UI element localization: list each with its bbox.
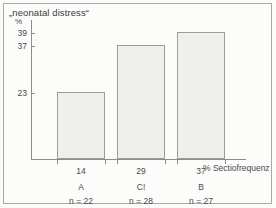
chart-figure: „neonatal distress“ % 39 37 23 14 29 37 … [0,0,276,208]
y-axis-unit-label: % [15,17,22,26]
y-tick-label-37: 37 [9,41,27,51]
x-tick-start-b [177,160,178,164]
x-axis-line [31,159,246,160]
y-tick-23 [31,93,35,94]
group-count-b: n = 27 [171,196,231,206]
group-count-a: n = 22 [51,196,111,206]
bar-group-a [57,92,105,159]
y-tick-37 [31,46,35,47]
group-label-a: A [57,182,105,192]
x-tick-end-c [165,160,166,164]
x-tick-start-c [117,160,118,164]
y-tick-39 [31,33,35,34]
group-label-b: B [177,182,225,192]
x-tick-end-a [105,160,106,164]
x-tick-label-14: 14 [57,166,105,176]
y-tick-label-39: 39 [9,28,27,38]
y-tick-label-23: 23 [9,88,27,98]
x-tick-label-29: 29 [117,166,165,176]
plot-area: % 39 37 23 14 29 37 A C! B n = 22 n = 28… [31,20,246,160]
x-axis-title: % Sectiofrequenz [203,163,270,173]
group-label-c: C! [117,182,165,192]
y-axis-line [31,20,32,160]
bar-group-c [117,45,165,159]
group-count-c: n = 28 [111,196,171,206]
bar-group-b [177,32,225,159]
x-tick-start-a [57,160,58,164]
